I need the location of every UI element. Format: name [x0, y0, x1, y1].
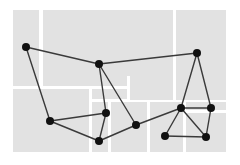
map-block — [186, 102, 226, 110]
graph-node-C — [193, 49, 201, 57]
map-block — [43, 76, 127, 86]
graph-node-G — [132, 121, 140, 129]
map-block — [43, 10, 173, 76]
map-block — [130, 89, 147, 99]
graph-node-H — [177, 104, 185, 112]
diagram-canvas — [0, 0, 240, 165]
graph-node-F — [95, 137, 103, 145]
graph-node-I — [207, 104, 215, 112]
map-block — [111, 102, 147, 152]
map-block — [92, 89, 127, 99]
graph-node-B — [95, 60, 103, 68]
graph-node-A — [22, 43, 30, 51]
graph-node-K — [202, 133, 210, 141]
map-blocks-layer — [13, 10, 226, 152]
graph-node-D — [46, 117, 54, 125]
graph-node-E — [102, 109, 110, 117]
network-diagram — [0, 0, 240, 165]
map-block — [150, 89, 173, 99]
map-block — [186, 113, 226, 152]
graph-node-J — [161, 132, 169, 140]
graph-edge-J-K — [165, 136, 206, 137]
